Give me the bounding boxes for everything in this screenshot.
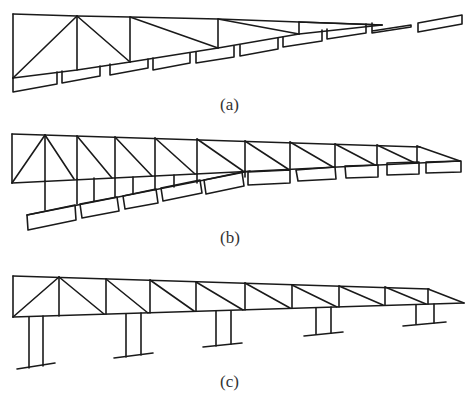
diagonal <box>77 16 130 62</box>
diagonal <box>13 16 77 78</box>
diagonal <box>130 17 218 48</box>
diagonal <box>45 135 74 179</box>
diagonal <box>59 277 104 314</box>
diagonal <box>335 144 375 165</box>
panel-a-truss <box>13 14 382 78</box>
pier-base <box>403 322 446 326</box>
slab <box>123 189 158 209</box>
diagonal <box>150 280 194 311</box>
pier <box>304 307 343 336</box>
panel-a-slabs <box>13 15 462 92</box>
diagonal <box>428 289 464 303</box>
diagonal <box>377 145 415 163</box>
diagonal <box>245 283 290 308</box>
diagonal <box>197 139 243 171</box>
panel-c-label: (c) <box>220 372 239 391</box>
panel-c-piers <box>17 304 446 369</box>
pier <box>114 313 153 358</box>
bottom-chord <box>12 161 460 183</box>
pier <box>17 316 55 369</box>
panel-b-label: (b) <box>220 228 240 247</box>
bottom-chord <box>13 303 464 317</box>
end-slab <box>418 15 462 32</box>
diagonal <box>385 287 426 304</box>
diagonal <box>417 146 460 161</box>
diagonal <box>13 277 59 317</box>
pier-base <box>203 343 242 347</box>
diagonal <box>299 22 382 25</box>
top-chord <box>12 134 420 147</box>
diagonal <box>196 282 243 310</box>
slab <box>27 205 76 230</box>
diagonal <box>106 279 148 313</box>
diagonal <box>339 286 383 305</box>
diagonal <box>292 285 337 307</box>
slab <box>204 172 244 194</box>
diagonal <box>155 138 195 174</box>
slab <box>327 24 366 39</box>
slab <box>248 170 290 185</box>
slab <box>62 66 100 83</box>
pier <box>403 304 446 326</box>
slab <box>161 180 202 201</box>
pier-base <box>17 363 55 369</box>
diagonal <box>12 135 45 183</box>
panel-b-truss <box>12 134 460 183</box>
pier-base <box>304 332 343 336</box>
figure: (a) <box>0 0 471 403</box>
pier-base <box>114 353 153 358</box>
top-chord <box>13 276 429 289</box>
slab <box>80 197 119 218</box>
pier <box>203 311 242 347</box>
slab <box>296 167 336 181</box>
diagonal <box>245 141 288 169</box>
diagonal <box>77 136 112 178</box>
diagonal <box>115 137 152 176</box>
panel-a-label: (a) <box>220 95 239 114</box>
panel-c-truss <box>13 276 464 317</box>
diagonal <box>290 142 333 167</box>
